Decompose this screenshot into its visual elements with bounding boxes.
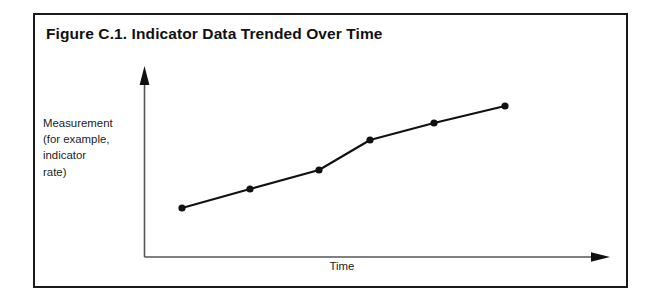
line-chart-plot	[35, 15, 630, 290]
data-point-marker	[315, 166, 322, 173]
y-axis-arrowhead	[140, 66, 150, 85]
data-point-marker	[501, 102, 508, 109]
data-point-marker	[430, 119, 437, 126]
x-axis-label: Time	[287, 260, 397, 272]
figure-frame: Figure C.1. Indicator Data Trended Over …	[33, 13, 628, 288]
x-axis-arrowhead	[591, 252, 610, 262]
data-series-line	[182, 106, 505, 208]
data-point-marker	[178, 204, 185, 211]
data-point-marker	[366, 136, 373, 143]
data-point-marker	[246, 185, 253, 192]
